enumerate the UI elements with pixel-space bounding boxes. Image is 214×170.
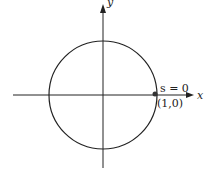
y-axis-label: y — [106, 0, 114, 9]
point-coordinate: (1,0) — [157, 97, 183, 110]
y-axis-arrow-icon — [100, 4, 106, 13]
x-axis-label: x — [197, 89, 204, 102]
unit-circle-diagram: x y s = 0 (1,0) — [0, 0, 214, 170]
point-marker — [153, 92, 158, 97]
point-label: s = 0 — [160, 82, 189, 95]
